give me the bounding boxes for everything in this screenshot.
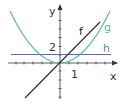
y-axis-arrow-icon xyxy=(58,4,63,10)
function-f-label: f xyxy=(79,25,84,38)
x-axis-label: x xyxy=(110,70,117,83)
y-axis xyxy=(58,4,63,99)
function-f-line xyxy=(25,22,100,98)
function-g-label: g xyxy=(104,21,111,34)
function-h-label: h xyxy=(103,42,110,55)
function-graph: y x 2 1 f g h xyxy=(0,0,121,104)
x-tick-label-1: 1 xyxy=(71,68,78,81)
y-axis-label: y xyxy=(49,5,56,18)
y-tick-label-2: 2 xyxy=(49,41,56,54)
x-axis-arrow-icon xyxy=(112,61,118,66)
